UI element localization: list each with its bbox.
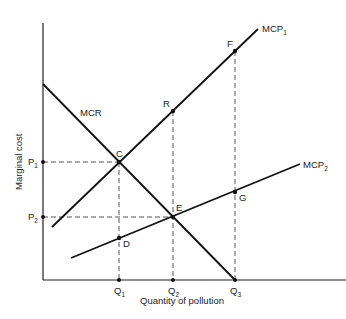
point-E (171, 215, 175, 219)
mcr-curve (43, 84, 235, 280)
curves: MCRMCP1MCP2 (43, 23, 328, 280)
y-axis-label: Marginal cost (13, 133, 24, 190)
mcp2-curve (71, 164, 300, 258)
tick-dot-q3 (233, 278, 237, 282)
tick-label-p1: P1 (28, 156, 38, 169)
tick-label-q3: Q3 (230, 285, 241, 298)
point-F (233, 49, 237, 53)
point-label-R: R (163, 98, 170, 109)
point-G (233, 190, 237, 194)
tick-label-q1: Q1 (114, 285, 125, 298)
tick-dot-p2 (41, 215, 45, 219)
point-label-G: G (239, 192, 246, 203)
pollution-marginal-cost-diagram: Marginal cost Quantity of pollution MCRM… (0, 0, 346, 319)
dashed-guides (43, 51, 235, 280)
tick-label-q2: Q2 (168, 285, 179, 298)
point-label-F: F (227, 38, 233, 49)
mcp2-label: MCP2 (303, 159, 328, 172)
point-label-D: D (123, 238, 130, 249)
tick-dot-q2 (171, 278, 175, 282)
mcr-label: MCR (80, 107, 102, 118)
point-D (117, 236, 121, 240)
tick-dot-q1 (117, 278, 121, 282)
axes: Marginal cost Quantity of pollution (13, 23, 346, 306)
point-label-C: C (116, 148, 123, 159)
mcp1-label: MCP1 (262, 23, 287, 36)
point-R (171, 109, 175, 113)
tick-dot-p1 (41, 160, 45, 164)
point-label-E: E (176, 202, 182, 213)
x-axis-label: Quantity of pollution (140, 295, 224, 306)
point-C (117, 160, 121, 164)
tick-label-p2: P2 (28, 211, 38, 224)
